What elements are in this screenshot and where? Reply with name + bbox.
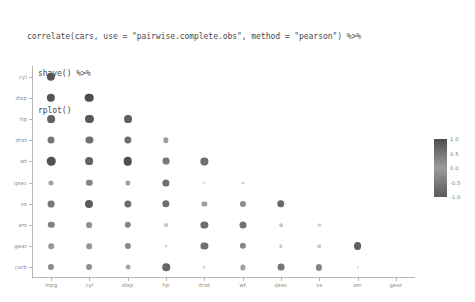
y-axis-tick-label-hp: hp [20, 116, 27, 122]
y-axis-tick-label-disp: disp [15, 95, 27, 101]
x-tick-mark [319, 278, 320, 281]
legend-tick-label: 0.5 [450, 151, 459, 157]
correlation-dot-gear-vs [317, 244, 321, 248]
y-axis-tick-label-carb: carb [15, 264, 27, 270]
correlation-plot: cyldisphpdratwtqsecvsamgearcarb mpgcyldi… [0, 58, 475, 302]
y-tick-mark [29, 204, 32, 205]
correlation-dot-hp-disp [124, 115, 132, 123]
y-axis-tick-label-wt: wt [20, 158, 27, 164]
correlation-dot-hp-mpg [47, 115, 55, 123]
y-axis-tick-label-am: am [18, 222, 27, 228]
y-tick-mark [29, 183, 32, 184]
correlation-dot-am-cyl [87, 222, 93, 228]
y-tick-mark [29, 98, 32, 99]
code-line: correlate(cars, use = "pairwise.complete… [0, 30, 475, 42]
x-tick-mark [166, 278, 167, 281]
y-axis-tick-label-vs: vs [21, 201, 27, 207]
y-tick-mark [29, 267, 32, 268]
x-axis-tick-label-gear: gear [390, 282, 403, 288]
correlation-dot-gear-mpg [48, 243, 54, 249]
correlation-dot-vs-cyl [85, 200, 93, 208]
legend-tick-label: 1.0 [450, 136, 459, 142]
y-tick-mark [29, 246, 32, 247]
x-axis-tick-label-cyl: cyl [85, 282, 93, 288]
x-tick-mark [51, 278, 52, 281]
x-axis-tick-label-drat: drat [199, 282, 210, 288]
x-axis-tick-label-disp: disp [122, 282, 134, 288]
x-tick-mark [89, 278, 90, 281]
x-axis-tick-label-mpg: mpg [45, 282, 57, 288]
correlation-dot-gear-qsec [279, 244, 283, 248]
correlation-dot-carb-qsec [278, 264, 285, 271]
x-axis-tick-label-hp: hp [163, 282, 170, 288]
correlation-dot-drat-mpg [48, 137, 55, 144]
x-tick-mark [396, 278, 397, 281]
correlation-dot-am-hp [164, 223, 168, 227]
y-tick-mark [29, 225, 32, 226]
correlation-dot-gear-am [354, 242, 362, 250]
correlation-dot-qsec-drat [203, 181, 206, 184]
legend: 1.00.50.0-0.5-1.0 [428, 133, 474, 207]
correlation-dot-gear-hp [165, 245, 168, 248]
correlation-dot-carb-hp [162, 264, 170, 272]
y-axis-tick-label-qsec: qsec [14, 180, 27, 186]
correlation-dot-wt-hp [163, 158, 170, 165]
x-tick-mark [281, 278, 282, 281]
correlation-dot-carb-disp [125, 265, 130, 270]
x-tick-mark [358, 278, 359, 281]
x-tick-mark [204, 278, 205, 281]
y-axis-tick-label-drat: drat [16, 137, 27, 143]
x-tick-mark [243, 278, 244, 281]
y-tick-mark [29, 161, 32, 162]
y-tick-mark [29, 119, 32, 120]
correlation-dot-vs-mpg [48, 200, 55, 207]
correlation-dot-wt-cyl [86, 158, 94, 166]
legend-gradient-bar [434, 139, 447, 197]
correlation-dot-carb-drat [203, 266, 206, 269]
correlation-dot-gear-cyl [87, 243, 93, 249]
legend-tick-label: 0.0 [450, 165, 459, 171]
correlation-dot-carb-cyl [86, 264, 92, 270]
x-axis-tick-label-wt: wt [239, 282, 246, 288]
x-axis-tick-label-vs: vs [316, 282, 322, 288]
x-axis-tick-label-qsec: qsec [274, 282, 287, 288]
correlation-dot-am-qsec [279, 223, 283, 227]
correlation-dot-wt-disp [123, 157, 132, 166]
x-tick-mark [128, 278, 129, 281]
legend-tick-label: -1.0 [450, 194, 461, 200]
y-axis-tick-label-cyl: cyl [19, 74, 27, 80]
y-axis-tick-label-gear: gear [14, 243, 27, 249]
correlation-dot-disp-cyl [85, 93, 94, 102]
y-tick-mark [29, 140, 32, 141]
y-tick-mark [29, 77, 32, 78]
legend-tick-label: -0.5 [450, 180, 461, 186]
x-axis-tick-label-am: am [353, 282, 362, 288]
